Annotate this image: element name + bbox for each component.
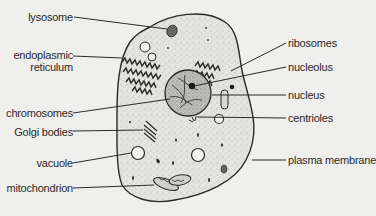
- label-lysosome: lysosome: [28, 11, 73, 23]
- label-mitochondrion: mitochondrion: [7, 182, 74, 194]
- vacuole-shape: [132, 147, 145, 160]
- label-endoplasmic-line1: endoplasmic: [13, 49, 73, 61]
- label-plasma-membrane: plasma membrane: [288, 154, 376, 166]
- label-nucleolus: nucleolus: [288, 61, 333, 73]
- nucleus-shape: [165, 70, 211, 116]
- label-nucleus: nucleus: [288, 89, 325, 101]
- label-chromosomes: chromosomes: [6, 107, 73, 119]
- label-vacuole: vacuole: [36, 157, 73, 169]
- label-ribosomes: ribosomes: [288, 37, 337, 49]
- label-endoplasmic-line2: reticulum: [13, 61, 73, 73]
- label-endoplasmic-reticulum: endoplasmic reticulum: [13, 49, 73, 73]
- label-golgi-bodies: Golgi bodies: [14, 126, 73, 138]
- label-centrioles: centrioles: [288, 112, 333, 124]
